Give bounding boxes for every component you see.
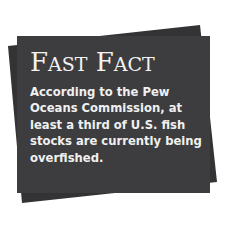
title-smallcaps: AST [48, 53, 87, 75]
title-initial: F [96, 47, 114, 77]
body-line: overfished. [30, 151, 103, 165]
fast-fact-body: According to the Pew Oceans Commission, … [30, 84, 210, 166]
title-smallcaps: ACT [114, 53, 155, 75]
body-line: According to the Pew [30, 85, 170, 99]
body-line: least a third of U.S. fish [30, 118, 185, 132]
fast-fact-card: FAST FACT According to the Pew Oceans Co… [17, 36, 210, 193]
title-initial: F [30, 47, 48, 77]
body-line: stocks are currently being [30, 134, 202, 148]
body-line: Oceans Commission, at [30, 101, 182, 115]
fast-fact-title: FAST FACT [30, 48, 210, 78]
